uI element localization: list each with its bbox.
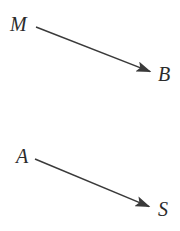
node-label-a: A xyxy=(16,146,28,166)
diagram-canvas xyxy=(0,0,180,231)
node-label-m: M xyxy=(10,14,27,34)
arrow-a-to-s xyxy=(35,159,149,207)
node-label-b: B xyxy=(158,64,170,84)
node-label-s: S xyxy=(158,199,168,219)
arrow-m-to-b xyxy=(36,27,150,72)
